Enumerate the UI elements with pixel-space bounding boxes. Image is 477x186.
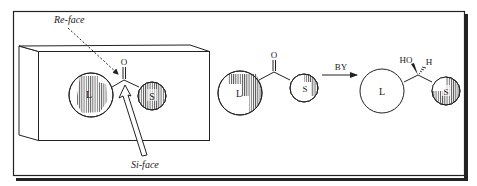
- small-group-sphere: S: [138, 82, 166, 110]
- hydrogen-label: H: [426, 57, 433, 67]
- product-large-label: L: [379, 86, 385, 97]
- substrate-small-sphere: S: [290, 74, 319, 102]
- small-group-label: S: [149, 91, 155, 102]
- product-small-sphere: S: [432, 77, 460, 105]
- hydroxyl-label: HO: [400, 55, 413, 65]
- substrate-oxygen-label: O: [271, 50, 278, 60]
- enzyme-box: [19, 45, 210, 141]
- substrate-large-sphere: L: [218, 71, 262, 115]
- oxygen-label: O: [121, 57, 128, 67]
- si-face-label: Si-face: [131, 159, 159, 170]
- reagent-label: BY: [335, 62, 348, 72]
- re-face-label: Re-face: [53, 14, 85, 25]
- substrate-large-label: L: [236, 88, 242, 99]
- large-group-sphere: L: [69, 73, 113, 117]
- product-large-sphere: L: [360, 69, 404, 113]
- product-small-label: S: [443, 87, 448, 97]
- prelog-rule-diagram: L S O Re-face Si-face L: [0, 0, 477, 186]
- large-group-label: L: [86, 89, 92, 100]
- substrate-small-label: S: [302, 84, 307, 94]
